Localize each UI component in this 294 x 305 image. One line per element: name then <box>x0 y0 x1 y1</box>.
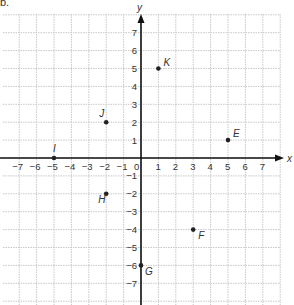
x-tick-label: 2 <box>173 161 178 172</box>
y-tick-label: 4 <box>132 81 137 92</box>
x-tick-label: −2 <box>99 161 110 172</box>
point-g <box>139 263 144 268</box>
y-tick-label: 3 <box>132 99 137 110</box>
x-tick-label: 3 <box>190 161 195 172</box>
axes: xy <box>0 2 293 305</box>
y-tick-label: −3 <box>126 206 137 217</box>
point-k <box>156 66 161 71</box>
point-label-e: E <box>233 128 240 139</box>
x-tick-label: 5 <box>225 161 230 172</box>
point-j <box>104 120 109 125</box>
x-tick-label: −3 <box>82 161 93 172</box>
x-tick-label: −6 <box>30 161 41 172</box>
y-tick-label: −4 <box>126 224 137 235</box>
point-label-k: K <box>163 57 171 68</box>
y-tick-label: 7 <box>132 27 137 38</box>
y-tick-label: −7 <box>126 278 137 289</box>
x-tick-label: −7 <box>12 161 23 172</box>
y-tick-label: −1 <box>126 170 137 181</box>
point-f <box>191 227 196 232</box>
point-label-f: F <box>198 230 205 241</box>
y-tick-label: −6 <box>126 260 137 271</box>
point-label-i: I <box>53 143 56 154</box>
y-tick-label: 1 <box>132 135 137 146</box>
coordinate-plane: xy −7−6−5−4−3−2−101234567−7−6−5−4−3−2−11… <box>0 0 294 305</box>
x-tick-label: 4 <box>208 161 213 172</box>
y-axis-label: y <box>136 2 143 13</box>
y-tick-label: −5 <box>126 242 137 253</box>
y-axis-arrow-icon <box>138 14 145 23</box>
y-tick-label: 5 <box>132 63 137 74</box>
x-tick-label: −5 <box>47 161 58 172</box>
x-tick-label: −4 <box>64 161 75 172</box>
x-axis-label: x <box>286 153 293 164</box>
x-tick-label: 1 <box>155 161 160 172</box>
point-label-h: H <box>98 194 106 205</box>
y-tick-label: 2 <box>132 117 137 128</box>
y-tick-label: 6 <box>132 45 137 56</box>
point-i <box>52 156 57 161</box>
point-label-j: J <box>98 108 105 119</box>
x-tick-label: 7 <box>260 161 265 172</box>
x-tick-label: 6 <box>242 161 247 172</box>
point-e <box>226 138 231 143</box>
y-tick-label: −2 <box>126 188 137 199</box>
point-label-g: G <box>145 266 153 277</box>
x-axis-arrow-icon <box>275 155 284 162</box>
